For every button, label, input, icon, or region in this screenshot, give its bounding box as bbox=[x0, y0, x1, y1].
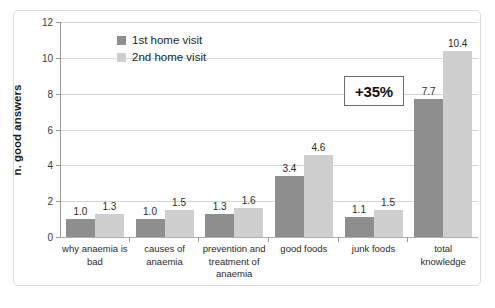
bar-group: 1.11.5 bbox=[339, 22, 409, 237]
x-axis-category-label: totalknowledge bbox=[408, 243, 478, 281]
x-tick-mark bbox=[129, 237, 130, 242]
x-axis-category-label: prevention andtreatment ofanaemia bbox=[199, 243, 269, 281]
y-tick-mark bbox=[56, 201, 60, 202]
chart-figure: n. good answers 1.01.31.01.51.31.63.44.6… bbox=[0, 0, 495, 308]
x-tick-mark bbox=[407, 237, 408, 242]
percent-increase-text: +35% bbox=[355, 83, 393, 100]
legend-swatch-light bbox=[117, 53, 126, 62]
y-axis-title: n. good answers bbox=[8, 22, 26, 237]
bar-value-label: 1.6 bbox=[242, 195, 256, 206]
y-tick-label: 4 bbox=[47, 160, 53, 171]
bar-second-home-visit: 10.4 bbox=[443, 51, 472, 237]
bar-value-label: 1.0 bbox=[143, 206, 157, 217]
y-axis-title-text: n. good answers bbox=[11, 84, 23, 175]
legend-swatch-dark bbox=[117, 36, 126, 45]
bar-value-label: 1.5 bbox=[172, 197, 186, 208]
x-axis-category-label: why anaemia isbad bbox=[60, 243, 130, 281]
bar-first-home-visit: 3.4 bbox=[275, 176, 304, 237]
bar-value-label: 1.0 bbox=[73, 206, 87, 217]
x-tick-mark bbox=[268, 237, 269, 242]
bar-value-label: 1.3 bbox=[213, 201, 227, 212]
bar-second-home-visit: 1.3 bbox=[95, 214, 124, 237]
x-label-line: total bbox=[434, 243, 452, 254]
x-label-line: why anaemia is bbox=[62, 243, 127, 254]
bar-first-home-visit: 1.1 bbox=[345, 217, 374, 237]
bar-group: 1.31.6 bbox=[199, 22, 269, 237]
bar-first-home-visit: 7.7 bbox=[414, 99, 443, 237]
percent-increase-callout: +35% bbox=[344, 76, 404, 106]
y-tick-label: 2 bbox=[47, 196, 53, 207]
bar-first-home-visit: 1.3 bbox=[205, 214, 234, 237]
x-axis-category-label: junk foods bbox=[339, 243, 409, 281]
x-axis-labels: why anaemia isbadcauses ofanaemiaprevent… bbox=[60, 243, 478, 281]
x-label-line: bad bbox=[87, 256, 103, 267]
bar-group: 3.44.6 bbox=[269, 22, 339, 237]
legend-item: 2nd home visit bbox=[117, 51, 206, 63]
bar-group: 7.710.4 bbox=[408, 22, 478, 237]
bar-second-home-visit: 1.5 bbox=[165, 210, 194, 237]
legend-item: 1st home visit bbox=[117, 34, 206, 46]
bar-pair: 1.11.5 bbox=[339, 22, 409, 237]
x-label-line: causes of bbox=[144, 243, 185, 254]
y-tick-label: 6 bbox=[47, 124, 53, 135]
x-axis-category-label: causes ofanaemia bbox=[130, 243, 200, 281]
bar-second-home-visit: 4.6 bbox=[304, 155, 333, 237]
bar-value-label: 10.4 bbox=[448, 38, 467, 49]
y-tick-mark bbox=[56, 130, 60, 131]
chart-legend: 1st home visit2nd home visit bbox=[117, 34, 206, 68]
x-label-line: prevention and bbox=[203, 243, 266, 254]
bar-value-label: 3.4 bbox=[282, 163, 296, 174]
legend-item-label: 2nd home visit bbox=[132, 51, 206, 63]
bar-value-label: 7.7 bbox=[422, 86, 436, 97]
legend-item-label: 1st home visit bbox=[132, 34, 202, 46]
x-label-line: junk foods bbox=[352, 243, 395, 254]
bar-second-home-visit: 1.5 bbox=[374, 210, 403, 237]
bar-value-label: 1.1 bbox=[352, 204, 366, 215]
x-label-line: knowledge bbox=[420, 256, 465, 267]
bar-value-label: 1.5 bbox=[381, 197, 395, 208]
bar-pair: 3.44.6 bbox=[269, 22, 339, 237]
y-tick-mark bbox=[56, 94, 60, 95]
bar-pair: 1.31.6 bbox=[199, 22, 269, 237]
y-tick-label: 12 bbox=[42, 17, 53, 28]
y-tick-mark bbox=[56, 58, 60, 59]
bar-first-home-visit: 1.0 bbox=[136, 219, 165, 237]
x-tick-mark bbox=[338, 237, 339, 242]
y-tick-mark bbox=[56, 237, 60, 238]
bar-pair: 7.710.4 bbox=[408, 22, 478, 237]
y-tick-mark bbox=[56, 22, 60, 23]
bar-first-home-visit: 1.0 bbox=[66, 219, 95, 237]
x-axis-category-label: good foods bbox=[269, 243, 339, 281]
x-label-line: treatment of bbox=[209, 256, 260, 267]
x-label-line: good foods bbox=[280, 243, 327, 254]
y-tick-label: 10 bbox=[42, 52, 53, 63]
bar-value-label: 4.6 bbox=[311, 142, 325, 153]
x-label-line: anaemia bbox=[146, 256, 182, 267]
bar-second-home-visit: 1.6 bbox=[234, 208, 263, 237]
bar-value-label: 1.3 bbox=[102, 201, 116, 212]
y-tick-label: 8 bbox=[47, 88, 53, 99]
y-tick-label: 0 bbox=[47, 232, 53, 243]
x-label-line: anaemia bbox=[216, 268, 252, 279]
x-tick-mark bbox=[198, 237, 199, 242]
y-tick-mark bbox=[56, 165, 60, 166]
